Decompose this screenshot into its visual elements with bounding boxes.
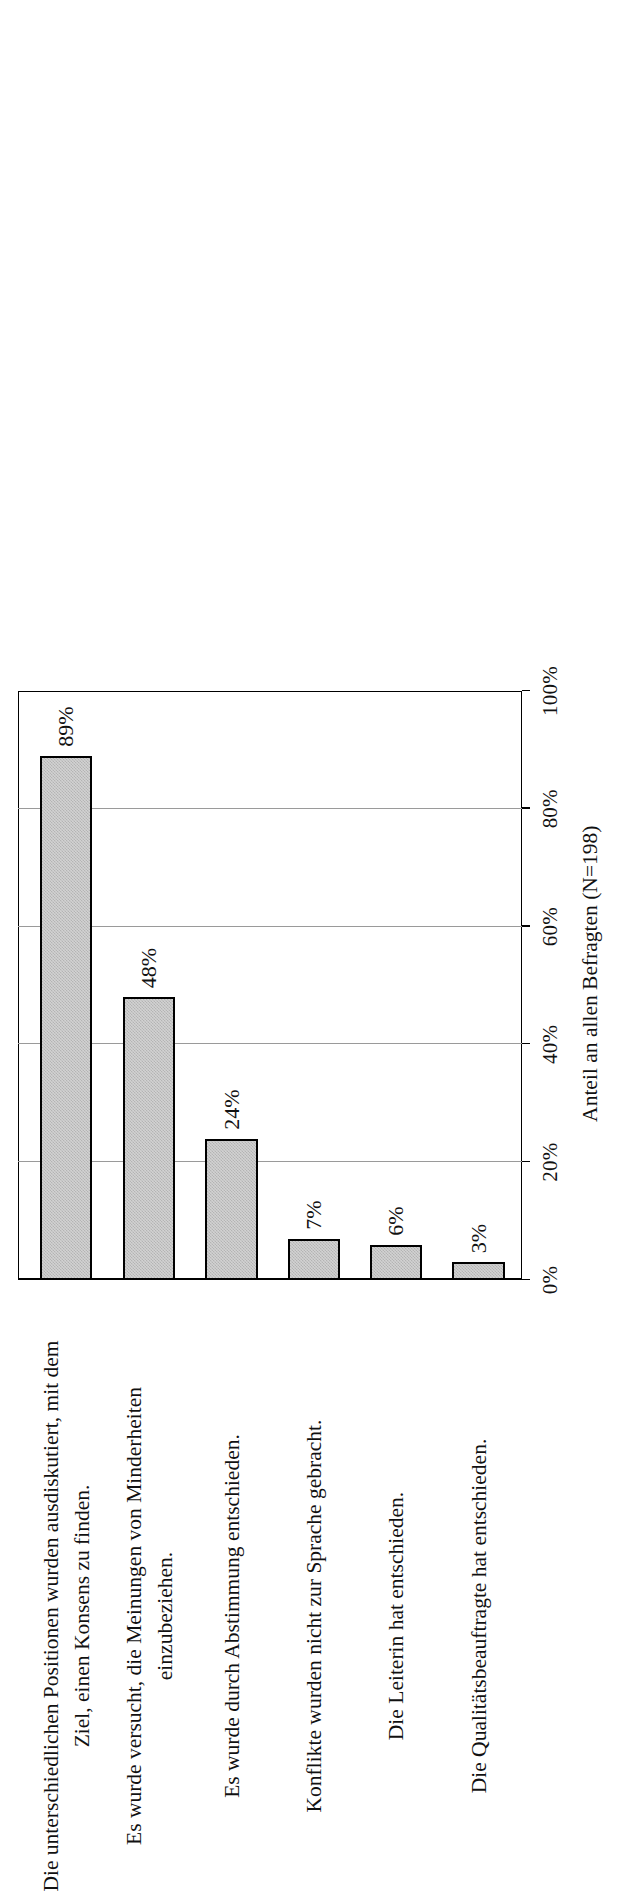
bar-value-label-3: 24% [219,1089,245,1129]
category-label-3: Es wurde durch Abstimmung entschieden. [217,1296,248,1895]
tick-60 [522,925,530,926]
tick-label-80: 80% [538,789,563,828]
bar-2 [123,997,175,1280]
bar-1 [40,756,92,1280]
plot-area [18,691,522,1280]
bar-value-label-4: 7% [301,1200,327,1229]
tick-label-60: 60% [538,907,563,946]
bar-value-label-1: 89% [53,706,79,746]
category-label-line: Es wurde durch Abstimmung entschieden. [217,1296,248,1895]
bar-3 [205,1139,258,1280]
category-label-1: Die unterschiedlichen Positionen wurden … [36,1296,97,1895]
category-label-line: Die Leiterin hat entschieden. [381,1296,412,1895]
tick-label-20: 20% [538,1143,563,1182]
bar-value-label-6: 3% [466,1224,492,1253]
category-axis-line [18,1278,522,1280]
tick-40 [522,1043,530,1044]
bar-5 [370,1245,422,1280]
bar-value-label-2: 48% [136,948,162,988]
tick-100 [522,690,530,691]
tick-80 [522,807,530,808]
bar-value-label-5: 6% [383,1206,409,1235]
tick-0 [522,1279,530,1280]
bar-6 [452,1262,505,1280]
category-label-line: Die unterschiedlichen Positionen wurden … [36,1296,67,1895]
category-label-5: Die Leiterin hat entschieden. [381,1296,412,1895]
value-axis-title: Anteil an allen Befragten (N=198) [578,826,603,1122]
category-label-4: Konflikte wurden nicht zur Sprache gebra… [299,1296,330,1895]
category-label-2: Es wurde versucht, die Meinungen von Min… [119,1296,180,1895]
category-label-line: Konflikte wurden nicht zur Sprache gebra… [299,1296,330,1895]
category-label-6: Die Qualitätsbeauftragte hat entschieden… [464,1296,495,1895]
tick-label-40: 40% [538,1025,563,1064]
category-label-line: Es wurde versucht, die Meinungen von Min… [119,1296,150,1895]
tick-label-0: 0% [538,1266,563,1294]
category-label-line: Ziel, einen Konsens zu finden. [67,1296,98,1895]
tick-label-100: 100% [538,666,563,716]
tick-20 [522,1161,530,1162]
category-label-line: Die Qualitätsbeauftragte hat entschieden… [464,1296,495,1895]
category-label-line: einzubeziehen. [150,1296,181,1895]
bar-4 [288,1239,340,1280]
